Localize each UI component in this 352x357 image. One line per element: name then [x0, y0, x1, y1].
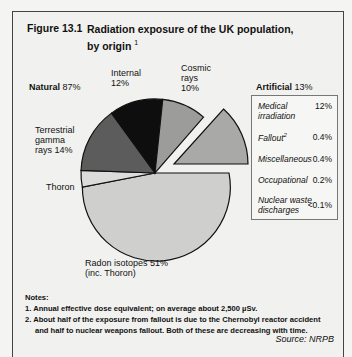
- cosmic-label: Cosmicrays10%: [181, 63, 211, 93]
- artificial-label: Artificial 13%: [256, 82, 313, 92]
- terrestrial-label: Terrestrialgammarays 14%: [35, 125, 75, 155]
- legend-row-fallout: Fallout2 0.4%: [258, 130, 336, 143]
- internal-label: Internal12%: [111, 68, 141, 88]
- thoron-label: Thoron: [46, 182, 75, 192]
- source-credit: Source: NRPB: [275, 334, 334, 344]
- notes-heading: Notes:: [25, 292, 345, 303]
- artificial-breakdown-legend: Medicalirradiation 12% Fallout2 0.4% Mis…: [251, 95, 338, 220]
- natural-label: Natural 87%: [29, 82, 81, 92]
- legend-row-miscellaneous: Miscellaneous 0.4%: [258, 154, 336, 164]
- legend-row-nuclear-waste: Nuclear wastedischarges <0.1%: [258, 195, 336, 215]
- note-1: 1. Annual effective dose equivalent; on …: [25, 303, 345, 314]
- notes: Notes: 1. Annual effective dose equivale…: [25, 292, 345, 336]
- legend-row-medical: Medicalirradiation 12%: [258, 101, 336, 121]
- radon-label: Radon isotopes 51%(inc. Thoron): [85, 258, 168, 278]
- note-2a: 2. About half of the exposure from fallo…: [25, 314, 345, 325]
- legend-row-occupational: Occupational 0.2%: [258, 175, 336, 185]
- slice-radon: [82, 173, 230, 261]
